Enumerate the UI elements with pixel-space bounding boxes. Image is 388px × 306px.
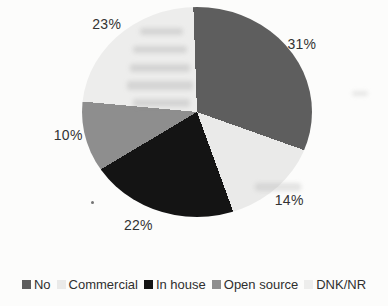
legend-item-open-source: Open source <box>212 277 298 292</box>
bleed-through-text-artifact <box>352 91 368 96</box>
legend-swatch-open-source <box>212 280 221 289</box>
legend-item-no: No <box>22 277 51 292</box>
legend-swatch-no <box>22 280 31 289</box>
slice-label-dnk-nr: 23% <box>92 16 121 32</box>
legend: NoCommercialIn houseOpen sourceDNK/NR <box>0 277 388 292</box>
legend-label-in-house: In house <box>156 277 206 292</box>
legend-item-commercial: Commercial <box>57 277 138 292</box>
slice-label-commercial: 14% <box>275 192 304 208</box>
legend-item-in-house: In house <box>144 277 206 292</box>
legend-swatch-dnk-nr <box>304 280 313 289</box>
pie-chart-figure: 31%14%22%10%23% NoCommercialIn houseOpen… <box>0 0 388 306</box>
bleed-through-text-artifact <box>133 99 190 107</box>
ink-dot-artifact <box>91 201 94 204</box>
bleed-through-text-artifact <box>140 28 183 35</box>
bleed-through-text-artifact <box>255 183 301 191</box>
legend-item-dnk-nr: DNK/NR <box>304 277 366 292</box>
slice-label-in-house: 22% <box>124 217 153 233</box>
legend-swatch-commercial <box>57 280 66 289</box>
legend-swatch-in-house <box>144 280 153 289</box>
bleed-through-text-artifact <box>133 46 187 53</box>
legend-label-open-source: Open source <box>224 277 298 292</box>
legend-label-commercial: Commercial <box>69 277 138 292</box>
legend-label-no: No <box>34 277 51 292</box>
legend-label-dnk-nr: DNK/NR <box>316 277 366 292</box>
slice-label-no: 31% <box>287 36 316 52</box>
bleed-through-text-artifact <box>127 81 193 90</box>
slice-label-open-source: 10% <box>54 127 83 143</box>
bleed-through-text-artifact <box>130 64 190 72</box>
